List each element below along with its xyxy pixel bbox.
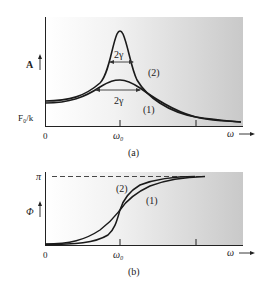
x-origin-label-a: 0 — [43, 131, 48, 141]
x-axis-label-a: ω — [227, 128, 234, 139]
up-arrow-icon — [38, 54, 42, 70]
x-tick-label-b: ω₀ — [113, 249, 124, 260]
curve-label-1: (1) — [143, 104, 155, 116]
y-axis-label-a: A — [26, 59, 34, 70]
x-tick-label-a: ω₀ — [113, 130, 124, 141]
caption-a: (a) — [128, 147, 139, 159]
caption-b: (b) — [128, 266, 140, 278]
curve-label-2: (2) — [148, 67, 160, 79]
width-label-lower: 2γ — [114, 95, 124, 106]
panel-b-phase: (2) (1) π Φ 0 ω₀ ω (b) — [26, 171, 255, 278]
width-label-upper: 2γ — [114, 49, 124, 60]
panel-a-amplitude: 2γ 2γ (2) (1) A F₀/k 0 ω₀ ω (a) — [18, 17, 255, 159]
right-arrow-icon — [239, 132, 255, 136]
phase-curve-label-1: (1) — [146, 195, 158, 207]
resonance-diagram: 2γ 2γ (2) (1) A F₀/k 0 ω₀ ω (a) (2) — [0, 0, 267, 283]
right-arrow-icon — [239, 251, 255, 255]
reference-amplitude-label: F₀/k — [18, 113, 34, 123]
y-axis-label-b: Φ — [26, 206, 34, 217]
x-axis-label-b: ω — [227, 247, 234, 258]
x-origin-label-b: 0 — [43, 250, 48, 260]
y-max-label-b: π — [36, 171, 42, 182]
up-arrow-icon — [38, 201, 42, 217]
phase-curve-label-2: (2) — [116, 183, 128, 195]
